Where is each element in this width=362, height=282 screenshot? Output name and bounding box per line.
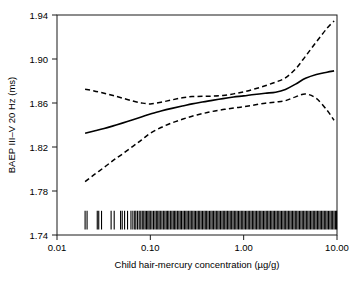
y-tick-label: 1.82 (30, 142, 49, 153)
x-tick-label: 1.00 (234, 242, 253, 253)
y-axis-tick-labels: 1.741.781.821.861.901.94 (30, 10, 49, 241)
y-tick-label: 1.90 (30, 54, 49, 65)
y-tick-label: 1.86 (30, 98, 49, 109)
chart-figure: 1.741.781.821.861.901.94 0.010.101.0010.… (0, 0, 362, 282)
chart-svg: 1.741.781.821.861.901.94 0.010.101.0010.… (0, 0, 362, 282)
x-tick-label: 0.10 (141, 242, 160, 253)
y-tick-label: 1.74 (30, 230, 49, 241)
x-axis-ticks (57, 235, 337, 240)
x-tick-label: 0.01 (48, 242, 67, 253)
x-tick-label: 10.00 (325, 242, 349, 253)
y-tick-label: 1.94 (30, 10, 49, 21)
plot-frame (57, 15, 337, 235)
x-axis-title: Child hair-mercury concentration (µg/g) (115, 259, 280, 270)
y-axis-ticks (52, 15, 57, 235)
y-tick-label: 1.78 (30, 186, 49, 197)
x-axis-tick-labels: 0.010.101.0010.00 (48, 242, 349, 253)
y-axis-title: BAEP III–V 20 Hz (ms) (6, 77, 17, 173)
